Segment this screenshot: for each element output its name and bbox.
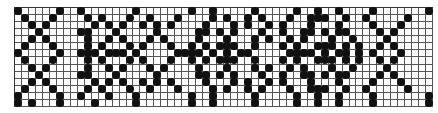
stitch-dot-icon bbox=[175, 86, 182, 93]
stitch-dot-icon bbox=[329, 43, 336, 50]
grid-cell bbox=[336, 36, 343, 43]
grid-cell bbox=[15, 79, 22, 86]
stitch-dot-icon bbox=[175, 15, 182, 22]
grid-cell bbox=[391, 100, 398, 107]
grid-cell bbox=[398, 57, 405, 64]
stitch-dot-icon bbox=[294, 100, 301, 107]
grid-cell bbox=[154, 86, 161, 93]
grid-cell bbox=[57, 57, 64, 64]
grid-cell bbox=[363, 57, 370, 64]
stitch-dot-icon bbox=[106, 79, 113, 86]
grid-cell bbox=[273, 86, 280, 93]
stitch-dot-icon bbox=[252, 100, 259, 107]
grid-cell bbox=[85, 93, 92, 100]
grid-cell bbox=[161, 100, 168, 107]
stitch-dot-icon bbox=[391, 57, 398, 64]
stitch-dot-icon bbox=[50, 57, 57, 64]
grid-cell bbox=[127, 65, 134, 72]
grid-cell bbox=[64, 29, 71, 36]
stitch-dot-icon bbox=[140, 57, 147, 64]
grid-cell bbox=[161, 86, 168, 93]
stitch-dot-icon bbox=[370, 79, 377, 86]
grid-cell bbox=[350, 15, 357, 22]
stitch-dot-icon bbox=[15, 50, 22, 57]
grid-cell bbox=[210, 65, 217, 72]
stitch-dot-icon bbox=[22, 15, 29, 22]
grid-cell bbox=[64, 65, 71, 72]
grid-cell bbox=[50, 72, 57, 79]
stitch-dot-icon bbox=[280, 57, 287, 64]
stitch-dot-icon bbox=[356, 57, 363, 64]
grid-cell bbox=[273, 36, 280, 43]
grid-cell bbox=[377, 93, 384, 100]
stitch-dot-icon bbox=[36, 29, 43, 36]
stitch-dot-icon bbox=[259, 29, 266, 36]
grid-cell bbox=[217, 8, 224, 15]
grid-cell bbox=[182, 86, 189, 93]
grid-cell bbox=[419, 22, 426, 29]
stitch-dot-icon bbox=[377, 57, 384, 64]
stitch-dot-icon bbox=[43, 65, 50, 72]
stitch-dot-icon bbox=[85, 72, 92, 79]
grid-cell bbox=[182, 29, 189, 36]
grid-cell bbox=[57, 72, 64, 79]
grid-cell bbox=[350, 79, 357, 86]
stitch-dot-icon bbox=[322, 29, 329, 36]
grid-cell bbox=[71, 57, 78, 64]
grid-cell bbox=[405, 22, 412, 29]
grid-cell bbox=[22, 93, 29, 100]
grid-cell bbox=[78, 79, 85, 86]
grid-cell bbox=[57, 65, 64, 72]
stitch-dot-icon bbox=[106, 36, 113, 43]
grid-cell bbox=[29, 86, 36, 93]
grid-cell bbox=[405, 65, 412, 72]
grid-cell bbox=[238, 36, 245, 43]
grid-cell bbox=[92, 29, 99, 36]
stitch-dot-icon bbox=[57, 50, 64, 57]
grid-cell bbox=[238, 93, 245, 100]
grid-cell bbox=[161, 72, 168, 79]
grid-cell bbox=[36, 50, 43, 57]
stitch-dot-icon bbox=[231, 29, 238, 36]
stitch-dot-icon bbox=[92, 50, 99, 57]
grid-cell bbox=[120, 100, 127, 107]
grid-cell bbox=[113, 57, 120, 64]
stitch-dot-icon bbox=[398, 79, 405, 86]
grid-cell bbox=[426, 43, 433, 50]
stitch-dot-icon bbox=[99, 57, 106, 64]
stitch-dot-icon bbox=[384, 65, 391, 72]
grid-cell bbox=[259, 100, 266, 107]
grid-cell bbox=[412, 100, 419, 107]
stitch-dot-icon bbox=[231, 79, 238, 86]
grid-cell bbox=[273, 50, 280, 57]
stitch-dot-icon bbox=[398, 50, 405, 57]
stitch-dot-icon bbox=[99, 86, 106, 93]
stitch-dot-icon bbox=[140, 22, 147, 29]
grid-cell bbox=[64, 57, 71, 64]
grid-cell bbox=[343, 93, 350, 100]
grid-cell bbox=[384, 93, 391, 100]
grid-cell bbox=[259, 57, 266, 64]
grid-cell bbox=[154, 57, 161, 64]
stitch-dot-icon bbox=[15, 8, 22, 15]
grid-cell bbox=[120, 93, 127, 100]
grid-cell bbox=[71, 100, 78, 107]
grid-cell bbox=[419, 36, 426, 43]
grid-cell bbox=[106, 8, 113, 15]
stitch-dot-icon bbox=[377, 72, 384, 79]
grid-cell bbox=[412, 8, 419, 15]
grid-cell bbox=[36, 86, 43, 93]
stitch-dot-icon bbox=[43, 79, 50, 86]
stitch-dot-icon bbox=[50, 15, 57, 22]
grid-cell bbox=[419, 72, 426, 79]
grid-cell bbox=[154, 93, 161, 100]
grid-cell bbox=[273, 100, 280, 107]
stitch-dot-icon bbox=[245, 50, 252, 57]
grid-cell bbox=[196, 100, 203, 107]
grid-cell bbox=[175, 65, 182, 72]
grid-cell bbox=[350, 8, 357, 15]
stitch-dot-icon bbox=[29, 36, 36, 43]
grid-cell bbox=[419, 79, 426, 86]
stitch-dot-icon bbox=[405, 86, 412, 93]
grid-cell bbox=[301, 100, 308, 107]
